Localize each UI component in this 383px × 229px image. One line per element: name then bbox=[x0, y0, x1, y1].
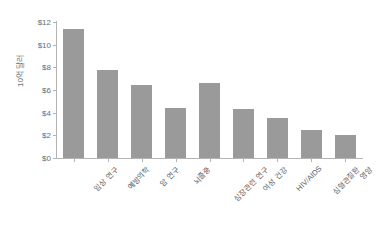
x-tick-mark bbox=[345, 158, 346, 162]
y-tick-label: $0 bbox=[42, 154, 51, 163]
bar bbox=[199, 83, 220, 158]
x-tick-mark bbox=[176, 158, 177, 162]
x-tick-label: HIV/AIDS bbox=[295, 164, 324, 193]
y-tick-mark bbox=[53, 45, 57, 46]
x-tick-mark bbox=[142, 158, 143, 162]
bar bbox=[63, 29, 84, 158]
y-tick-mark bbox=[53, 22, 57, 23]
bar bbox=[165, 108, 186, 158]
x-tick-mark bbox=[108, 158, 109, 162]
y-tick-label: $10 bbox=[38, 40, 51, 49]
y-tick-label: $6 bbox=[42, 86, 51, 95]
y-tick-label: $4 bbox=[42, 108, 51, 117]
bar bbox=[301, 130, 322, 158]
y-tick-mark bbox=[53, 67, 57, 68]
x-tick-label: 영양 bbox=[357, 164, 375, 182]
x-tick-label: 심혈관질환 bbox=[329, 164, 362, 197]
bar bbox=[335, 135, 356, 158]
x-tick-label: 임상 연구 bbox=[91, 164, 120, 193]
bar-chart: 10억 달러 $0$2$4$6$8$10$12 임상 연구예방의학암 연구뇌졸중… bbox=[0, 0, 383, 229]
y-tick-mark bbox=[53, 158, 57, 159]
x-tick-label: 암 연구 bbox=[156, 164, 180, 188]
bar bbox=[131, 85, 152, 158]
y-tick-mark bbox=[53, 113, 57, 114]
y-tick-mark bbox=[53, 90, 57, 91]
y-tick-label: $12 bbox=[38, 18, 51, 27]
y-tick-label: $2 bbox=[42, 131, 51, 140]
bar bbox=[267, 118, 288, 158]
x-tick-label: 예방의학 bbox=[124, 164, 152, 192]
x-tick-mark bbox=[277, 158, 278, 162]
y-tick-mark bbox=[53, 135, 57, 136]
x-tick-mark bbox=[210, 158, 211, 162]
y-tick-label: $8 bbox=[42, 63, 51, 72]
x-tick-mark bbox=[243, 158, 244, 162]
x-tick-mark bbox=[311, 158, 312, 162]
bar bbox=[233, 109, 254, 158]
x-tick-mark bbox=[74, 158, 75, 162]
x-tick-label: 뇌졸중 bbox=[190, 164, 213, 187]
y-axis-title: 10억 달러 bbox=[14, 36, 25, 106]
bar bbox=[97, 70, 118, 158]
plot-area: $0$2$4$6$8$10$12 bbox=[57, 22, 362, 158]
